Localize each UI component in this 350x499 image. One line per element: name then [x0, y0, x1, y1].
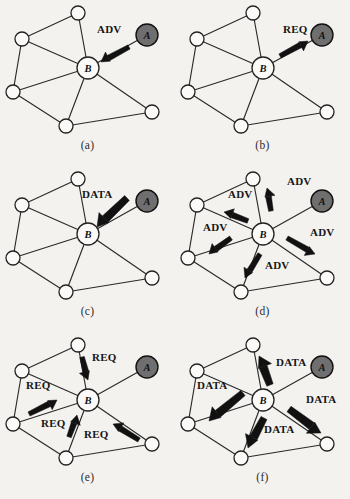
edge-lower_left-bottom	[13, 258, 66, 292]
message-label-req-0: REQ	[92, 351, 117, 363]
node-upper_left	[15, 364, 29, 378]
arrow-shaft	[259, 365, 273, 386]
node-label-A: A	[142, 30, 150, 41]
message-arrow-adv-4	[244, 253, 262, 278]
message-arrow-req-0	[79, 356, 89, 380]
node-top	[71, 6, 85, 20]
node-bottom	[59, 119, 73, 133]
panel-caption-a: (a)	[0, 139, 175, 151]
edge-upper_left-lower_left	[188, 205, 197, 258]
arrow-shaft	[80, 356, 89, 372]
message-label-data-1: DATA	[197, 379, 227, 391]
node-label-A: A	[317, 362, 325, 373]
message-label-adv-1: ADV	[228, 188, 252, 200]
message-label-data-0: DATA	[276, 356, 306, 368]
message-label-req-2: REQ	[41, 417, 66, 429]
edge-top-upper_left	[197, 345, 253, 371]
node-bottom	[234, 451, 248, 465]
panel-caption-f: (f)	[175, 471, 350, 483]
node-bottom	[234, 285, 248, 299]
message-arrow-req-1	[28, 400, 57, 416]
node-lower_left	[181, 251, 195, 265]
node-label-B: B	[83, 395, 91, 406]
node-bottom	[59, 451, 73, 465]
node-upper_left	[190, 364, 204, 378]
edge-bottom-lower_right	[66, 444, 152, 458]
message-arrow-adv-0	[101, 45, 130, 62]
panel-caption-c: (c)	[0, 305, 175, 317]
arrow-head	[265, 188, 275, 197]
node-top	[71, 172, 85, 186]
edge-top-upper_left	[22, 179, 78, 205]
arrow-shaft	[279, 43, 302, 59]
arrow-shaft	[214, 236, 232, 251]
node-bottom	[234, 119, 248, 133]
node-label-A: A	[317, 196, 325, 207]
node-label-A: A	[142, 362, 150, 373]
edge-lower_left-B	[188, 68, 263, 92]
edge-lower_left-bottom	[188, 424, 241, 458]
node-lower_left	[181, 85, 195, 99]
edge-lower_left-bottom	[13, 92, 66, 126]
message-arrow-data-0	[97, 196, 129, 227]
message-label-data-0: DATA	[82, 188, 112, 200]
edge-lower_left-bottom	[188, 258, 241, 292]
message-label-req-0: REQ	[283, 23, 308, 35]
node-label-A: A	[317, 30, 325, 41]
message-label-adv-2: ADV	[203, 221, 227, 233]
node-upper_left	[15, 32, 29, 46]
node-top	[71, 338, 85, 352]
panel-caption-b: (b)	[175, 139, 350, 151]
edge-lower_left-B	[13, 68, 88, 92]
protocol-figure: BAADV(a)BAREQ(b)BADATA(c)BAADVADVADVADVA…	[0, 0, 350, 499]
panel-caption-e: (e)	[0, 471, 175, 483]
edge-bottom-lower_right	[241, 278, 327, 292]
node-upper_left	[190, 32, 204, 46]
edge-upper_left-lower_left	[188, 371, 197, 424]
message-arrow-adv-0	[265, 188, 275, 211]
message-arrow-adv-1	[224, 209, 249, 223]
edge-upper_left-lower_left	[13, 205, 22, 258]
node-bottom	[59, 285, 73, 299]
edge-top-upper_left	[22, 345, 78, 371]
arrow-shaft	[67, 422, 77, 438]
node-lower_right	[320, 105, 334, 119]
arrow-shaft	[107, 45, 130, 61]
node-lower_left	[181, 417, 195, 431]
message-label-req-1: REQ	[26, 379, 51, 391]
message-label-adv-0: ADV	[97, 23, 121, 35]
node-top	[246, 172, 260, 186]
node-top	[246, 338, 260, 352]
edge-lower_left-bottom	[188, 92, 241, 126]
node-lower_left	[6, 251, 20, 265]
panel-caption-d: (d)	[175, 305, 350, 317]
edge-top-upper_left	[197, 13, 253, 39]
node-lower_right	[145, 105, 159, 119]
edge-bottom-lower_right	[241, 444, 327, 458]
edge-lower_left-bottom	[13, 424, 66, 458]
message-arrow-data-1	[209, 390, 245, 421]
node-label-B: B	[83, 229, 91, 240]
node-label-B: B	[258, 63, 266, 74]
message-label-data-3: DATA	[264, 423, 294, 435]
edge-upper_left-lower_left	[13, 39, 22, 92]
node-lower_right	[320, 437, 334, 451]
message-label-data-2: DATA	[306, 393, 336, 405]
node-lower_left	[6, 85, 20, 99]
edge-upper_left-lower_left	[188, 39, 197, 92]
edge-upper_left-lower_left	[13, 371, 22, 424]
node-lower_right	[145, 437, 159, 451]
arrow-shaft	[28, 401, 51, 416]
message-label-adv-0: ADV	[287, 175, 311, 187]
edge-lower_left-B	[13, 234, 88, 258]
edge-top-upper_left	[22, 13, 78, 39]
node-lower_right	[320, 271, 334, 285]
node-top	[246, 6, 260, 20]
node-upper_left	[15, 198, 29, 212]
node-lower_right	[145, 271, 159, 285]
node-label-B: B	[83, 63, 91, 74]
message-arrow-data-0	[258, 356, 273, 386]
edge-bottom-lower_right	[241, 112, 327, 126]
node-upper_left	[190, 198, 204, 212]
node-label-A: A	[142, 196, 150, 207]
